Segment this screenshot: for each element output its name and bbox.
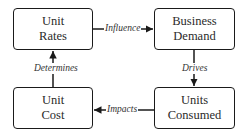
edge-label-influence: Influence — [104, 23, 141, 34]
node-label-line1: Units — [181, 93, 208, 108]
node-label-line2: Cost — [42, 108, 65, 123]
edge-label-determines: Determines — [33, 63, 79, 74]
node-label-line2: Demand — [173, 29, 215, 44]
node-units-consumed: Units Consumed — [154, 87, 235, 129]
node-business-demand: Business Demand — [154, 8, 235, 50]
node-label-line1: Business — [172, 14, 216, 29]
node-label-line2: Consumed — [168, 108, 221, 123]
node-unit-cost: Unit Cost — [13, 87, 93, 129]
node-unit-rates: Unit Rates — [13, 8, 93, 50]
node-label-line1: Unit — [42, 14, 64, 29]
node-label-line2: Rates — [39, 29, 67, 44]
node-label-line1: Unit — [42, 93, 64, 108]
edge-label-drives: Drives — [181, 63, 208, 74]
edge-label-impacts: Impacts — [106, 104, 138, 115]
